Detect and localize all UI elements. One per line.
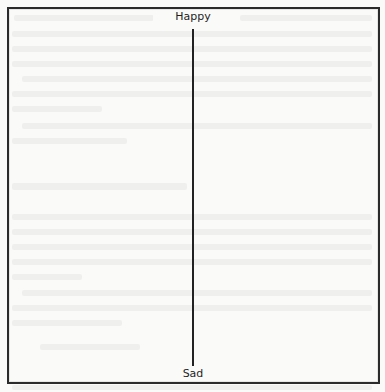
bleed-through-text	[12, 385, 372, 390]
scale-bottom-label: Sad	[153, 367, 233, 380]
scale-top-label: Happy	[153, 10, 233, 23]
happy-sad-scale-line	[192, 29, 194, 366]
diagram-page: Happy Sad	[0, 0, 385, 392]
